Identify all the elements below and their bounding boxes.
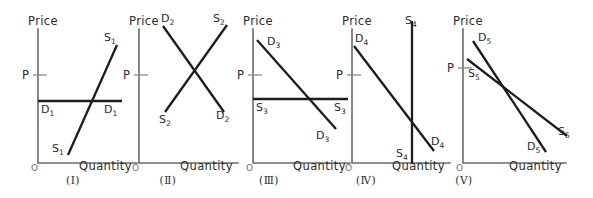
panel-2-supply-label-bottom: S2 <box>159 113 171 128</box>
panel-3-supply-label-left: S3 <box>256 101 268 116</box>
panel-2-demand-label-bottom: D2 <box>216 109 229 124</box>
panel-1-caption: (Ⅰ) <box>66 174 80 186</box>
panel-5-supply-curve <box>467 59 567 136</box>
panel-1-origin-label: O <box>31 163 38 173</box>
panel-4-supply-label-bottom: S4 <box>396 147 408 162</box>
panel-4-demand-curve <box>354 46 434 151</box>
panel-2-supply-label-top: S2 <box>213 12 225 27</box>
panel-3-axes <box>253 29 350 163</box>
panel-3-supply-label-right: S3 <box>334 101 346 116</box>
panel-5-supply-label-right: S5 <box>558 125 570 140</box>
panel-3: Price Quantity O P D3 D3 S3 S3 (Ⅲ) <box>237 14 350 186</box>
panel-5: Price Quantity O P D5 D5 S5 S5 (Ⅴ) <box>447 14 570 186</box>
panel-1-supply-label-top: S1 <box>104 31 116 46</box>
panel-5-y-axis-label: Price <box>453 14 483 28</box>
panel-5-price-tick-label: P <box>447 61 454 75</box>
panel-2-price-tick-label: P <box>123 68 130 82</box>
panel-3-price-tick-label: P <box>237 68 244 82</box>
panel-2-caption: (Ⅱ) <box>160 174 177 186</box>
panel-3-caption: (Ⅲ) <box>259 174 279 186</box>
panel-3-demand-label-bottom: D3 <box>316 129 329 144</box>
economics-figure: Price Quantity O P D1 D1 S1 S1 (Ⅰ) Price… <box>0 0 593 198</box>
panel-2-demand-label-top: D2 <box>161 12 174 27</box>
panel-1: Price Quantity O P D1 D1 S1 S1 (Ⅰ) <box>22 14 137 186</box>
panel-3-x-axis-label: Quantity <box>293 159 346 173</box>
panel-1-x-axis-label: Quantity <box>79 159 132 173</box>
panel-3-y-axis-label: Price <box>243 14 273 28</box>
panel-2-origin-label: O <box>132 163 139 173</box>
panel-1-demand-label-right: D1 <box>104 103 117 118</box>
panel-5-demand-label-top: D5 <box>478 31 491 46</box>
panel-2-supply-curve <box>165 25 227 112</box>
panel-5-caption: (Ⅴ) <box>455 174 472 186</box>
panel-4: Price Quantity O P D4 D4 S4 S4 (Ⅳ) <box>336 14 450 186</box>
panel-3-origin-label: O <box>246 163 253 173</box>
panel-1-price-tick-label: P <box>22 68 29 82</box>
panel-4-caption: (Ⅳ) <box>356 174 376 186</box>
panel-1-supply-label-bottom: S1 <box>52 142 64 157</box>
panel-5-origin-label: O <box>456 163 463 173</box>
panel-1-demand-label-left: D1 <box>41 103 54 118</box>
panel-4-demand-label-top: D4 <box>355 32 368 47</box>
panel-1-y-axis-label: Price <box>28 14 58 28</box>
panel-4-demand-label-bottom: D4 <box>431 135 444 150</box>
panel-3-demand-label-top: D3 <box>267 35 280 50</box>
panel-4-price-tick-label: P <box>336 68 343 82</box>
panel-3-demand-curve <box>257 40 336 129</box>
panel-2-x-axis-label: Quantity <box>180 159 233 173</box>
panel-5-supply-label-top: S5 <box>468 67 480 82</box>
panel-2-demand-curve <box>163 26 224 112</box>
panel-4-supply-label-top: S4 <box>405 14 417 29</box>
panel-2-y-axis-label: Price <box>129 14 159 28</box>
panel-2-axes <box>139 29 238 163</box>
panel-5-demand-curve <box>473 41 546 152</box>
panel-4-x-axis-label: Quantity <box>392 159 445 173</box>
panel-4-y-axis-label: Price <box>342 14 372 28</box>
panel-4-origin-label: O <box>345 163 352 173</box>
panel-2: Price Quantity O P D2 D2 S2 S2 (Ⅱ) <box>123 12 238 186</box>
panel-5-x-axis-label: Quantity <box>509 159 562 173</box>
